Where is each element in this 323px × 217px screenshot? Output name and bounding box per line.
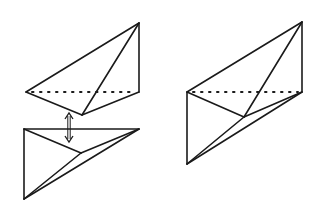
edge-bottom-middle bbox=[187, 117, 244, 164]
edge-bottom-right bbox=[82, 92, 139, 115]
edge-apex-middle bbox=[244, 22, 302, 117]
edge-left-bottom bbox=[26, 92, 82, 115]
diagram-canvas bbox=[0, 0, 323, 217]
edge-bottom-inner bbox=[24, 153, 81, 199]
edge-bottom-right bbox=[187, 92, 302, 164]
double-arrow-icon bbox=[65, 113, 73, 142]
edge-inner-top_right bbox=[81, 129, 139, 153]
edge-left-apex bbox=[187, 22, 302, 92]
left-bottom-tetrahedron bbox=[24, 129, 139, 199]
edge-left-apex bbox=[26, 23, 139, 92]
assembled-solid bbox=[187, 22, 302, 164]
edge-bottom-top_right bbox=[24, 129, 139, 199]
left-top-tetrahedron bbox=[26, 23, 139, 115]
diagram-svg bbox=[0, 0, 323, 217]
edge-middle-right bbox=[244, 92, 302, 117]
edge-top_left-inner bbox=[24, 129, 81, 153]
edge-left-middle bbox=[187, 92, 244, 117]
edge-apex-bottom bbox=[82, 23, 139, 115]
